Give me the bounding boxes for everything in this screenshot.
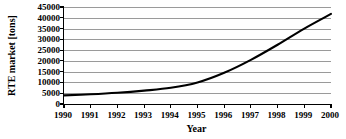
x-axis-tick-mark	[277, 104, 278, 108]
x-axis-tick-mark	[197, 104, 198, 108]
y-axis-tick-labels: 0500010000150002000025000300003500040000…	[18, 0, 62, 112]
x-axis-tick-label: 1998	[268, 110, 286, 121]
x-axis-tick-mark	[90, 104, 91, 108]
y-axis-tick-label: 5000	[42, 89, 60, 98]
y-axis-tick-mark	[60, 6, 64, 7]
y-axis-tick-mark	[60, 71, 64, 72]
x-axis-title: Year	[63, 123, 330, 134]
y-axis-tick-label: 20000	[38, 56, 61, 65]
x-axis-tick-label: 1990	[54, 110, 72, 121]
y-axis-tick-label: 10000	[38, 78, 61, 87]
y-axis-tick-mark	[60, 60, 64, 61]
y-axis-tick-mark	[60, 50, 64, 51]
x-axis-tick-label: 1991	[81, 110, 99, 121]
x-axis-tick-label: 1994	[161, 110, 179, 121]
x-axis-tick-mark	[330, 104, 331, 108]
plot-area	[63, 7, 331, 105]
chart-figure: RTE market [tons] 0500010000150002000025…	[0, 0, 346, 139]
data-series-rte-market	[64, 7, 331, 104]
x-axis-tick-mark	[144, 104, 145, 108]
x-axis-tick-labels: 1990199119921993199419951996199719981999…	[63, 110, 330, 123]
y-axis-tick-label: 30000	[38, 35, 61, 44]
x-axis-tick-mark	[250, 104, 251, 108]
y-axis-title-text: RTE market [tons]	[6, 15, 17, 96]
x-axis-tick-label: 2000	[321, 110, 339, 121]
y-axis-tick-mark	[60, 82, 64, 83]
y-axis-tick-label: 25000	[38, 46, 61, 55]
y-axis-tick-mark	[60, 93, 64, 94]
y-axis-tick-mark	[60, 17, 64, 18]
x-axis-tick-mark	[304, 104, 305, 108]
x-axis-tick-label: 1996	[214, 110, 232, 121]
y-axis-tick-label: 40000	[38, 13, 61, 22]
x-axis-tick-mark	[170, 104, 171, 108]
x-axis-tick-label: 1997	[241, 110, 259, 121]
x-axis-tick-label: 1992	[107, 110, 125, 121]
x-axis-tick-mark	[224, 104, 225, 108]
y-axis-tick-label: 15000	[38, 67, 61, 76]
x-axis-tick-mark	[63, 104, 64, 108]
x-axis-tick-label: 1993	[134, 110, 152, 121]
y-axis-tick-mark	[60, 28, 64, 29]
x-axis-tick-mark	[117, 104, 118, 108]
x-axis-tick-label: 1999	[294, 110, 312, 121]
y-axis-tick-label: 45000	[38, 3, 61, 12]
y-axis-tick-mark	[60, 39, 64, 40]
x-axis-tick-label: 1995	[188, 110, 206, 121]
line-path	[64, 14, 331, 95]
y-axis-tick-label: 35000	[38, 24, 61, 33]
